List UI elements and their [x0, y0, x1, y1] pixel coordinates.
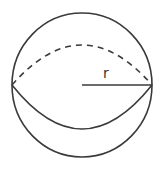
- equator-front-arc: [12, 85, 152, 129]
- equator-back-dashed-arc: [12, 45, 152, 85]
- radius-label: r: [103, 65, 109, 81]
- sphere-diagram: r: [0, 0, 162, 169]
